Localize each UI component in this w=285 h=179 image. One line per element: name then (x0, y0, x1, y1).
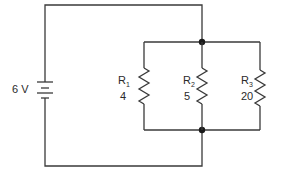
r3-label: R3 (241, 74, 253, 88)
wire-bottom (45, 98, 202, 166)
r2-value: 5 (184, 90, 190, 102)
wire-top (45, 5, 202, 82)
battery-voltage-label: 6 V (12, 83, 29, 95)
circuit-diagram: 6 V R1 4 R2 5 R3 20 (0, 0, 285, 179)
r1-label: R1 (118, 74, 130, 88)
resistor-icon (197, 68, 207, 104)
r1-value: 4 (120, 90, 126, 102)
r2-label: R2 (183, 74, 195, 88)
battery-icon (37, 82, 53, 98)
resistor-r1 (139, 42, 149, 130)
r3-value: 20 (241, 90, 253, 102)
resistor-r3 (255, 42, 265, 130)
resistor-icon (139, 68, 149, 104)
resistor-r2 (197, 42, 207, 130)
resistor-icon (255, 70, 265, 106)
